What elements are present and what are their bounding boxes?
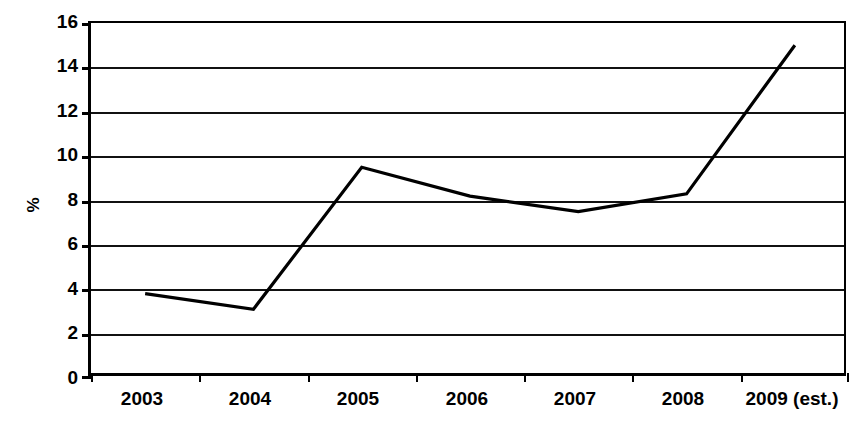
y-axis-tick-mark xyxy=(82,67,91,70)
y-axis-tick-label: 2 xyxy=(34,323,78,342)
plot-area xyxy=(88,21,846,376)
series-polyline xyxy=(145,45,795,309)
y-axis-tick-mark xyxy=(82,23,91,26)
y-axis-tick-label: 16 xyxy=(34,12,78,31)
y-axis-tick-label: 8 xyxy=(34,190,78,209)
y-axis-tick-mark xyxy=(82,245,91,248)
x-axis-tick-label: 2007 xyxy=(535,388,615,410)
chart-figure: % 16 14 12 10 8 6 4 2 0 xyxy=(0,0,867,436)
x-axis-tick-label: 2009 (est.) xyxy=(727,388,857,410)
y-axis-tick-label: 14 xyxy=(34,56,78,75)
y-axis-tick-mark xyxy=(82,289,91,292)
y-axis-tick-mark xyxy=(82,376,91,379)
y-axis-tick-label: 6 xyxy=(34,234,78,253)
x-axis-tick-label: 2005 xyxy=(318,388,398,410)
y-axis-tick-mark xyxy=(82,112,91,115)
y-axis-tick-mark xyxy=(82,156,91,159)
x-axis-tick-label: 2003 xyxy=(102,388,182,410)
y-axis-tick-label: 0 xyxy=(34,368,78,387)
y-axis-tick-mark xyxy=(82,334,91,337)
y-axis-tick-label: 4 xyxy=(34,279,78,298)
x-axis-tick-label: 2006 xyxy=(427,388,507,410)
data-series-line xyxy=(91,23,849,378)
x-axis-tick-label: 2004 xyxy=(210,388,290,410)
y-axis-tick-mark xyxy=(82,201,91,204)
x-axis-tick-label: 2008 xyxy=(643,388,723,410)
y-axis-tick-label: 10 xyxy=(34,145,78,164)
y-axis-tick-label: 12 xyxy=(34,101,78,120)
